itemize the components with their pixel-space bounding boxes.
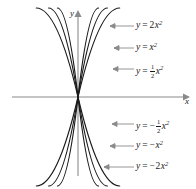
label-sign-neg-2x2: − xyxy=(150,162,155,172)
label-lhs-neg-half-x2: y xyxy=(136,122,140,132)
leader-neg-x2 xyxy=(110,144,134,149)
parabola-family-figure: y x y = 2 x 2 y = x 2 y = 1 2 x 2 y = − … xyxy=(0,0,196,189)
fraction-numerator: 1 xyxy=(150,64,155,71)
label-lhs-half-x2: y xyxy=(136,67,140,77)
curve-label-neg-x2: y = − x 2 xyxy=(136,141,163,151)
curve-label-2x2: y = 2 x 2 xyxy=(136,21,162,31)
curve-label-x2: y = x 2 xyxy=(136,43,157,53)
leader-neg-2x2 xyxy=(104,165,134,170)
label-lhs-2x2: y xyxy=(136,21,140,31)
label-eq-half-x2: = xyxy=(142,67,147,77)
label-eq-neg-2x2: = xyxy=(142,162,147,172)
label-coef-2x2: 2 xyxy=(150,21,155,31)
label-sign-neg-half-x2: − xyxy=(150,122,155,132)
label-pow-x2: 2 xyxy=(154,42,157,49)
label-pow-neg-2x2: 2 xyxy=(165,161,168,168)
label-eq-neg-half-x2: = xyxy=(142,122,147,132)
x-axis-label: x xyxy=(185,97,189,106)
label-pow-neg-half-x2: 2 xyxy=(166,120,169,127)
leader-half-x2 xyxy=(113,67,134,72)
leader-2x2 xyxy=(110,24,134,29)
label-lhs-neg-2x2: y xyxy=(136,162,140,172)
curve-label-neg-half-x2: y = − 1 2 x 2 xyxy=(136,119,169,134)
fraction-denominator: 2 xyxy=(156,126,161,134)
label-pow-2x2: 2 xyxy=(159,20,162,27)
y-axis-arrowhead xyxy=(74,10,81,17)
label-fraction-neg-half: 1 2 xyxy=(156,119,161,134)
label-pow-neg-x2: 2 xyxy=(160,140,163,147)
curve-label-half-x2: y = 1 2 x 2 xyxy=(136,64,163,79)
leader-neg-half-x2 xyxy=(112,122,134,127)
label-pow-half-x2: 2 xyxy=(160,65,163,72)
label-fraction-half: 1 2 xyxy=(150,64,155,79)
leader-x2 xyxy=(114,46,134,51)
label-lhs-x2: y xyxy=(136,43,140,53)
label-coef-neg-2x2: 2 xyxy=(155,162,160,172)
y-axis-label: y xyxy=(70,9,74,18)
fraction-denominator: 2 xyxy=(150,71,155,79)
axes-group xyxy=(12,10,190,176)
label-eq-2x2: = xyxy=(142,21,147,31)
label-lhs-neg-x2: y xyxy=(136,141,140,151)
fraction-numerator: 1 xyxy=(156,119,161,126)
label-eq-x2: = xyxy=(142,43,147,53)
label-eq-neg-x2: = xyxy=(142,141,147,151)
curve-label-neg-2x2: y = − 2 x 2 xyxy=(136,162,168,172)
